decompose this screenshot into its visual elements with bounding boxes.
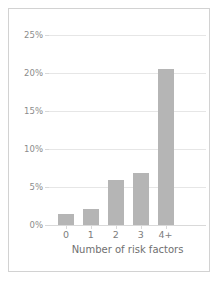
y-axis-tick-label: 25% — [24, 30, 43, 40]
x-axis-tick-label: 4+ — [151, 229, 181, 240]
bar-chart: 0%5%10%15%20%25% 01234+ Number of risk f… — [9, 9, 211, 273]
bar — [133, 173, 149, 225]
y-axis-tick-label: 5% — [30, 182, 44, 192]
x-axis-line — [49, 225, 206, 226]
bar — [108, 180, 124, 225]
y-axis-tick-labels: 0%5%10%15%20%25% — [9, 9, 43, 273]
plot-area — [49, 35, 206, 225]
y-axis-tick-label: 15% — [24, 106, 43, 116]
bar — [83, 209, 99, 225]
bar — [158, 69, 174, 225]
x-axis-title: Number of risk factors — [49, 244, 206, 255]
y-axis-tick-label: 10% — [24, 144, 43, 154]
chart-figure-frame: 0%5%10%15%20%25% 01234+ Number of risk f… — [8, 8, 210, 272]
bar — [58, 214, 74, 225]
y-axis-tick-label: 20% — [24, 68, 43, 78]
y-axis-tick-label: 0% — [30, 220, 44, 230]
